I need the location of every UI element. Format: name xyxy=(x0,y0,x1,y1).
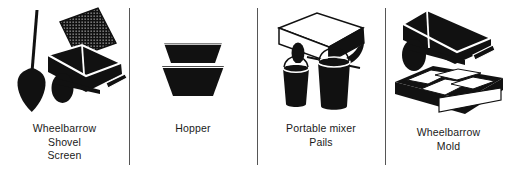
panel-caption: Portable mixer Pails xyxy=(257,122,385,149)
caption-line: Wheelbarrow xyxy=(0,122,129,136)
panel-artwork xyxy=(385,0,512,122)
caption-line: Screen xyxy=(0,149,129,163)
panel-caption: Wheelbarrow Mold xyxy=(385,126,512,153)
panel-divider xyxy=(257,8,258,165)
panel-artwork xyxy=(257,0,385,122)
wheelbarrow-icon xyxy=(48,45,127,103)
shovel-icon xyxy=(17,10,45,112)
panel-caption: Wheelbarrow Shovel Screen xyxy=(0,122,129,163)
hopper-icon xyxy=(162,43,224,96)
panel-divider xyxy=(385,8,386,165)
panel-artwork xyxy=(0,0,129,122)
caption-line: Pails xyxy=(257,136,385,150)
panel-wheelbarrow-mold: Wheelbarrow Mold xyxy=(385,0,512,179)
tool-illustration-figure: Wheelbarrow Shovel Screen Hopper xyxy=(0,0,512,179)
caption-line: Wheelbarrow xyxy=(385,126,512,140)
wheelbarrow-icon xyxy=(402,10,495,71)
panel-divider xyxy=(129,8,130,165)
caption-line: Hopper xyxy=(129,122,257,136)
caption-line: Shovel xyxy=(0,136,129,150)
panel-portable-mixer-pails: Portable mixer Pails xyxy=(257,0,385,179)
panel-wheelbarrow-shovel-screen: Wheelbarrow Shovel Screen xyxy=(0,0,129,179)
caption-line: Portable mixer xyxy=(257,122,385,136)
panel-hopper: Hopper xyxy=(129,0,257,179)
panel-artwork xyxy=(129,0,257,122)
caption-line: Mold xyxy=(385,140,512,154)
mold-icon xyxy=(395,66,503,114)
panel-caption: Hopper xyxy=(129,122,257,136)
